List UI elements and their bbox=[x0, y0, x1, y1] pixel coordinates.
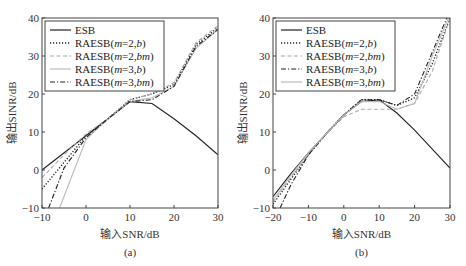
legend-entry: RAESB(m=2,b) bbox=[75, 37, 146, 50]
legend-entry: ESB bbox=[75, 24, 95, 36]
x-tick-label: 10 bbox=[125, 211, 137, 223]
chart-figure: −100102030−10010203040输入SNR/dB(a)输出SINR/… bbox=[0, 0, 466, 266]
y-tick-label: 0 bbox=[34, 164, 40, 176]
y-tick-label: 40 bbox=[259, 12, 271, 24]
panel-b: −20−100102030−10010203040输入SNR/dB(b)输出SI… bbox=[236, 10, 456, 259]
y-tick-label: 30 bbox=[28, 50, 40, 62]
x-tick-label: 30 bbox=[213, 211, 225, 223]
y-tick-label: −10 bbox=[253, 202, 271, 214]
x-tick-label: 10 bbox=[374, 211, 386, 223]
x-tick-label: −10 bbox=[300, 211, 318, 223]
y-tick-label: 40 bbox=[28, 12, 40, 24]
legend-entry: RAESB(m=3,b) bbox=[306, 63, 377, 76]
y-tick-label: 20 bbox=[28, 88, 40, 100]
y-axis-label: 输出SINR/dB bbox=[236, 82, 249, 145]
legend-entry: RAESB(m=3,bm) bbox=[306, 76, 385, 89]
x-tick-label: 0 bbox=[83, 211, 89, 223]
y-tick-label: 10 bbox=[259, 126, 271, 138]
x-axis-label: 输入SNR/dB bbox=[332, 227, 391, 240]
x-axis-label: 输入SNR/dB bbox=[100, 227, 159, 240]
y-tick-label: 20 bbox=[259, 88, 271, 100]
legend-entry: RAESB(m=3,b) bbox=[75, 63, 146, 76]
legend: ESBRAESB(m=2,b)RAESB(m=2,bm)RAESB(m=3,b)… bbox=[276, 21, 395, 91]
y-axis-label: 输出SINR/dB bbox=[5, 82, 18, 145]
y-tick-label: 30 bbox=[259, 50, 271, 62]
x-tick-label: 0 bbox=[341, 211, 347, 223]
series-line bbox=[42, 102, 218, 170]
y-tick-label: 10 bbox=[28, 126, 40, 138]
legend-entry: ESB bbox=[306, 24, 326, 36]
y-tick-label: 0 bbox=[265, 164, 271, 176]
legend-entry: RAESB(m=2,bm) bbox=[306, 50, 385, 63]
legend: ESBRAESB(m=2,b)RAESB(m=2,bm)RAESB(m=3,b)… bbox=[45, 21, 164, 91]
panel-a: −100102030−10010203040输入SNR/dB(a)输出SINR/… bbox=[5, 12, 224, 259]
legend-entry: RAESB(m=3,bm) bbox=[75, 76, 154, 89]
panel-label: (b) bbox=[355, 246, 368, 259]
x-tick-label: 20 bbox=[169, 211, 181, 223]
x-tick-label: 20 bbox=[409, 211, 421, 223]
panel-label: (a) bbox=[124, 246, 137, 259]
series-line bbox=[273, 100, 450, 197]
x-tick-label: 30 bbox=[445, 211, 457, 223]
y-tick-label: −10 bbox=[22, 202, 40, 214]
legend-entry: RAESB(m=2,bm) bbox=[75, 50, 154, 63]
legend-entry: RAESB(m=2,b) bbox=[306, 37, 377, 50]
